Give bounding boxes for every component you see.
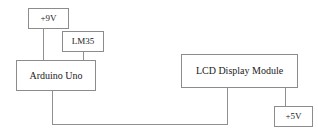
block-lm35-sensor-label: LM35 [72,37,95,46]
block-lcd-display-module: LCD Display Module [181,54,298,88]
block-supply-5v-label: +5V [285,112,301,121]
block-lm35-sensor: LM35 [62,31,104,52]
wire-arduino-to-lcd-segment-across [52,124,228,125]
block-lcd-display-module-label: LCD Display Module [196,66,283,76]
block-arduino-uno-label: Arduino Uno [29,71,82,81]
block-supply-9v-label: +9V [40,14,56,23]
wire-arduino-to-lcd-segment-down [52,90,53,125]
block-diagram-canvas: +9V LM35 Arduino Uno LCD Display Module … [0,0,318,135]
block-supply-9v: +9V [28,8,69,29]
wire-9v-to-arduino [43,28,44,61]
block-arduino-uno: Arduino Uno [16,60,96,91]
block-supply-5v: +5V [274,106,313,127]
wire-arduino-to-lcd-segment-up [227,88,228,125]
wire-lcd-to-5v [285,87,286,107]
